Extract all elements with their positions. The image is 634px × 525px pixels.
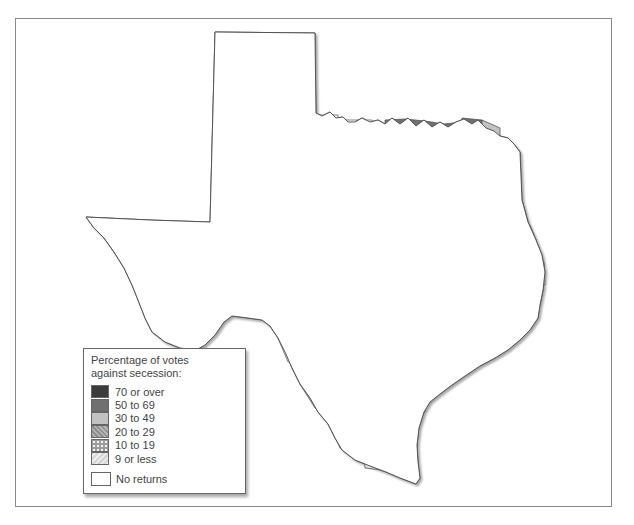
legend-swatch [91,399,109,412]
legend-label: 20 to 29 [115,426,155,438]
map-legend: Percentage of votes against secession: 7… [83,348,246,494]
legend-label: 10 to 19 [115,439,155,451]
legend-swatch [91,439,109,452]
legend-swatch [91,472,111,486]
legend-item-50-to-69: 50 to 69 [91,398,245,411]
legend-item-20-to-29: 20 to 29 [91,425,245,438]
legend-item-no-returns: No returns [91,471,245,487]
legend-item-9-or-less: 9 or less [91,452,245,465]
legend-label: 30 to 49 [115,412,155,424]
legend-swatch [91,452,109,465]
legend-title-line2: against secession: [91,367,245,380]
legend-item-30-to-49: 30 to 49 [91,412,245,425]
legend-item-70-or-over: 70 or over [91,385,245,398]
legend-label: 9 or less [115,453,157,465]
legend-item-10-to-19: 10 to 19 [91,439,245,452]
legend-title-line1: Percentage of votes [91,354,245,367]
legend-swatch [91,385,109,398]
legend-label: 50 to 69 [115,399,155,411]
legend-swatch [91,425,109,438]
legend-swatch [91,412,109,425]
legend-label: 70 or over [115,386,165,398]
legend-label: No returns [116,473,167,485]
